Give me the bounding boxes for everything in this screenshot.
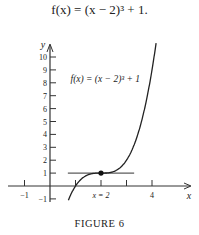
y-tick-label: 4 bbox=[43, 130, 47, 139]
y-tick-label: 3 bbox=[43, 143, 47, 152]
y-tick-label: 9 bbox=[43, 66, 47, 75]
x-tick-label: x = 2 bbox=[92, 191, 110, 200]
x-axis-label: x bbox=[186, 190, 192, 201]
y-tick-label: 7 bbox=[43, 92, 47, 101]
y-axis-label: y bbox=[40, 39, 46, 50]
y-tick-label: 10 bbox=[39, 53, 47, 62]
y-tick-label: 1 bbox=[43, 169, 47, 178]
figure-caption: FIGURE 6 bbox=[0, 218, 199, 229]
y-tick-label: 5 bbox=[43, 118, 47, 127]
x-tick-label: 4 bbox=[150, 191, 154, 200]
y-tick-label: −1 bbox=[38, 195, 47, 204]
x-tick-label: −1 bbox=[20, 191, 29, 200]
inflection-point bbox=[98, 171, 103, 176]
y-tick-label: 8 bbox=[43, 79, 47, 88]
function-graph: xy−112345678910−1x = 24f(x) = (x − 2)³ +… bbox=[0, 0, 199, 235]
function-curve bbox=[68, 43, 156, 200]
curve-label: f(x) = (x − 2)³ + 1 bbox=[71, 74, 141, 85]
y-tick-label: 6 bbox=[43, 105, 47, 114]
y-tick-label: 2 bbox=[43, 156, 47, 165]
